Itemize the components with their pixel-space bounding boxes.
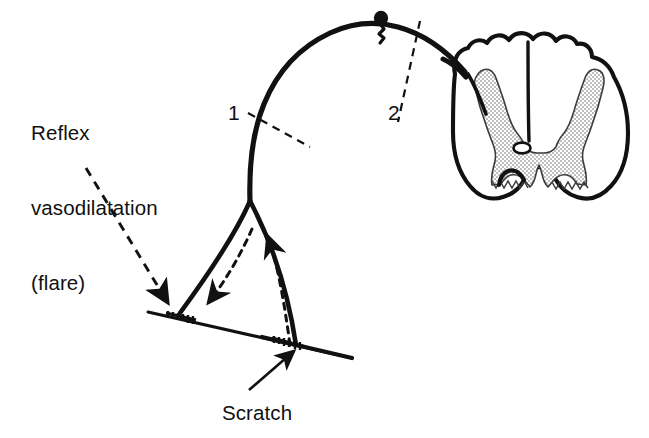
section-marker-2-line: [398, 21, 420, 122]
section-marker-1-label: 1: [228, 101, 240, 125]
orthodromic-branch-fibre: [250, 201, 296, 345]
axon-reflex-figure: Reflex vasodilatation (flare) Scratch 1 …: [0, 0, 649, 438]
scratch-label: Scratch: [222, 400, 292, 425]
central-canal: [514, 143, 531, 154]
dorsal-median-sulcus: [528, 42, 529, 141]
section-marker-2-label: 2: [388, 101, 400, 125]
scratch-leader-arrow: [249, 351, 294, 390]
reflex-vasodilatation-label: Reflex vasodilatation (flare): [31, 70, 158, 345]
flare-label-line-3: (flare): [31, 270, 158, 295]
axon-reflex-loop: [148, 201, 352, 358]
ganglion-stalk: [379, 25, 384, 43]
ganglion-cell-body: [374, 11, 388, 25]
nerve-arc-main: [250, 24, 465, 201]
flare-label-line-1: Reflex: [31, 120, 158, 145]
white-matter-outline: [453, 33, 628, 198]
spinal-cord-cross-section: [453, 33, 628, 198]
afferent-nerve-fibre: [250, 24, 466, 201]
flare-label-line-2: vasodilatation: [31, 195, 158, 220]
